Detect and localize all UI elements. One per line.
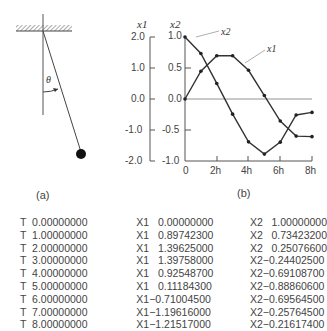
y1-tick: 0.0 <box>131 93 145 104</box>
x-tick: 2h <box>210 165 221 176</box>
y2-tick: 0.0 <box>168 93 182 104</box>
data-point <box>215 82 219 86</box>
cell-x2: X2−0.69108700 <box>250 267 327 280</box>
cell-x1: X1 0.11184300 <box>136 280 250 293</box>
data-point <box>231 112 235 116</box>
chart-series <box>183 35 314 156</box>
data-point <box>278 140 282 144</box>
cell-t: T 6.00000000 <box>20 293 136 306</box>
figure-b-caption: (b) <box>237 187 250 199</box>
data-point <box>310 135 314 139</box>
cell-x1: X1 0.92548700 <box>136 267 250 280</box>
cell-x1: X1 1.39758000 <box>136 254 250 267</box>
cell-x2: X2 0.73423200 <box>250 229 327 242</box>
y1-tick: 1.0 <box>131 62 145 73</box>
data-point <box>183 35 187 39</box>
table-row: T 3.00000000X1 1.39758000X2−0.24402500 <box>20 254 327 267</box>
cell-t: T 1.00000000 <box>20 229 136 242</box>
cell-x2: X2 0.25076600 <box>250 242 327 255</box>
y1-tick: 2.0 <box>131 31 145 42</box>
data-point <box>199 52 203 56</box>
data-point <box>215 54 219 58</box>
cell-x2: X2−0.24402500 <box>250 254 327 267</box>
data-point <box>263 94 267 98</box>
y2-axis-label: x2 <box>170 18 180 30</box>
data-point <box>263 152 267 156</box>
y2-tick: -0.5 <box>162 124 179 135</box>
table-row: T 0.00000000X1 0.00000000X2 1.00000000 <box>20 216 327 229</box>
data-point <box>310 111 314 115</box>
curve-label-x1: x1 <box>267 43 276 54</box>
x-tick: 6h <box>273 165 284 176</box>
series-x1-line <box>185 56 312 137</box>
data-point <box>231 54 235 58</box>
cell-t: T 7.00000000 <box>20 306 136 319</box>
chart <box>0 0 327 210</box>
x-tick: 0 <box>183 165 189 176</box>
data-point <box>183 97 187 101</box>
table-row: T 2.00000000X1 1.39625000X2 0.25076600 <box>20 242 327 255</box>
data-point <box>247 140 251 144</box>
cell-x1: X1 1.39625000 <box>136 242 250 255</box>
x-tick: 4h <box>241 165 252 176</box>
x-tick: 8h <box>305 165 316 176</box>
cell-x2: X2−0.21617400 <box>250 318 327 331</box>
table-row: T 6.00000000X1−0.71004500X2−0.69564500 <box>20 293 327 306</box>
series-x2-line <box>185 37 312 154</box>
cell-x1: X1 0.00000000 <box>136 216 250 229</box>
data-point <box>294 134 298 138</box>
table-row: T 7.00000000X1−1.19616000X2−0.25764500 <box>20 306 327 319</box>
data-point <box>278 119 282 123</box>
y2-tick: 1.0 <box>168 30 182 41</box>
cell-x2: X2−0.69564500 <box>250 293 327 306</box>
cell-t: T 2.00000000 <box>20 242 136 255</box>
table-row: T 8.00000000X1−1.21517000X2−0.21617400 <box>20 318 327 331</box>
y1-axis-label: x1 <box>137 18 147 30</box>
cell-x1: X1−0.71004500 <box>136 293 250 306</box>
cell-x1: X1−1.21517000 <box>136 318 250 331</box>
cell-t: T 3.00000000 <box>20 254 136 267</box>
cell-x2: X2 1.00000000 <box>250 216 327 229</box>
data-point <box>294 113 298 117</box>
cell-t: T 4.00000000 <box>20 267 136 280</box>
y1-tick: -2.0 <box>125 155 142 166</box>
cell-t: T 8.00000000 <box>20 318 136 331</box>
y1-tick: -1.0 <box>125 124 142 135</box>
cell-x2: X2−0.25764500 <box>250 306 327 319</box>
data-point <box>199 69 203 73</box>
data-point <box>247 69 251 73</box>
cell-x2: X2−0.88860600 <box>250 280 327 293</box>
cell-t: T 5.00000000 <box>20 280 136 293</box>
cell-t: T 0.00000000 <box>20 216 136 229</box>
cell-x1: X1 0.89742300 <box>136 229 250 242</box>
table-row: T 4.00000000X1 0.92548700X2−0.69108700 <box>20 267 327 280</box>
table-row: T 5.00000000X1 0.11184300X2−0.88860600 <box>20 280 327 293</box>
curve-label-x2: x2 <box>221 26 230 37</box>
y2-tick: 0.5 <box>168 62 182 73</box>
table-row: T 1.00000000X1 0.89742300X2 0.73423200 <box>20 229 327 242</box>
y2-tick: -1.0 <box>162 155 179 166</box>
cell-x1: X1−1.19616000 <box>136 306 250 319</box>
results-table: T 0.00000000X1 0.00000000X2 1.00000000T … <box>20 216 327 331</box>
